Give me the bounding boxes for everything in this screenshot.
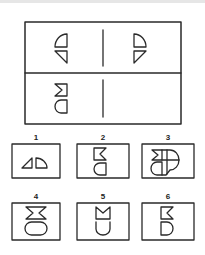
option-frame[interactable] (77, 144, 129, 178)
notched-square-shape (55, 84, 67, 96)
option-label: 5 (101, 192, 106, 201)
oval-shape (25, 222, 47, 235)
d-shape (55, 100, 67, 113)
d-shape (161, 222, 173, 235)
notched-square-shape (152, 150, 162, 160)
triangle-shape (55, 51, 67, 63)
notched-square-shape (94, 148, 106, 160)
triangle-shape (22, 158, 32, 168)
option-4[interactable]: 4 (12, 192, 60, 240)
matrix-grid (25, 22, 181, 124)
option-5[interactable]: 5 (77, 192, 129, 240)
hourglass-shape (26, 207, 46, 219)
cell-top-right (134, 34, 146, 63)
notched-square-shape (96, 207, 110, 219)
cell-bottom-left (55, 84, 67, 113)
quarter-circle-shape (134, 34, 146, 47)
option-label: 3 (166, 133, 171, 142)
option-6[interactable]: 6 (142, 192, 194, 240)
option-label: 1 (34, 133, 39, 142)
option-label: 4 (34, 192, 39, 201)
option-2[interactable]: 2 (77, 133, 129, 178)
puzzle-diagram: 1 2 3 4 5 (0, 0, 205, 255)
d-shape (151, 162, 162, 175)
quarter-circle-shape (55, 34, 67, 47)
d-shape (94, 163, 106, 175)
option-1[interactable]: 1 (12, 133, 60, 178)
option-label: 6 (166, 192, 171, 201)
triangle-shape (134, 51, 146, 63)
quarter-circle-shape (36, 158, 47, 168)
option-3[interactable]: 3 (142, 133, 194, 178)
u-shape (96, 222, 110, 235)
option-label: 2 (101, 133, 106, 142)
notched-square-shape (161, 207, 173, 219)
quartered-circle-shape (162, 150, 179, 175)
cell-top-left (55, 34, 67, 63)
